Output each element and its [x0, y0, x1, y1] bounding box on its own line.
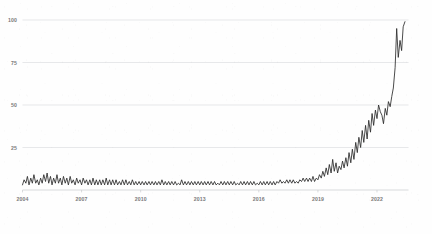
- y-tick-label: 100: [8, 17, 17, 23]
- x-tick-label: 2019: [312, 196, 324, 202]
- data-line-interest: [23, 22, 405, 185]
- x-tick-label: 2010: [135, 196, 147, 202]
- x-tick-label: 2007: [76, 196, 88, 202]
- y-tick-label: 50: [11, 102, 17, 108]
- data-series-group: [23, 22, 405, 185]
- x-axis-tick-labels: 2004200720102013201620192022: [17, 196, 383, 202]
- x-tick-label: 2013: [194, 196, 206, 202]
- chart-svg: 255075100 2004200720102013201620192022: [0, 0, 432, 234]
- x-axis-line-group: [23, 190, 409, 192]
- x-tick-label: 2004: [17, 196, 29, 202]
- x-tick-label: 2022: [371, 196, 383, 202]
- y-tick-label: 75: [11, 60, 17, 66]
- trends-line-chart: 255075100 2004200720102013201620192022: [0, 0, 432, 234]
- x-tick-label: 2016: [253, 196, 265, 202]
- y-axis-tick-labels: 255075100: [8, 17, 17, 151]
- gridlines-group: [23, 20, 409, 148]
- y-tick-label: 25: [11, 145, 17, 151]
